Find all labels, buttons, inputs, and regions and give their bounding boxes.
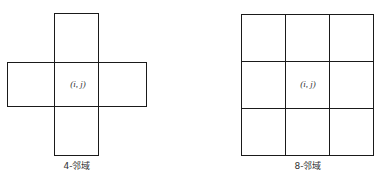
cell-middle-left [241,61,286,109]
cell-top-middle [285,14,330,62]
cell-bottom [54,106,99,156]
cell-left [7,62,55,107]
cell-top [54,13,99,63]
center-pixel-label: (i, j) [70,79,86,89]
cell-top-right [329,14,374,62]
cell-bottom-middle [285,108,330,156]
center-pixel-label: (i, j) [300,79,316,89]
cell-right [98,62,147,107]
eight-neighborhood-caption: 8-邻域 [295,159,322,172]
four-neighborhood-caption: 4-邻域 [64,159,91,172]
cell-bottom-left [241,108,286,156]
cell-top-left [241,14,286,62]
cell-bottom-right [329,108,374,156]
cell-middle-right [329,61,374,109]
